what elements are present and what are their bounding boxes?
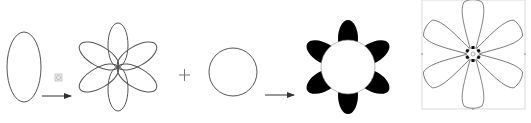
rotate-tool-icon bbox=[55, 74, 62, 81]
black-flower bbox=[302, 20, 393, 114]
edited-petals bbox=[421, 0, 526, 108]
center-point bbox=[471, 52, 475, 56]
six-petal-outline bbox=[75, 23, 161, 111]
edited-flower bbox=[421, 0, 526, 110]
diagram-svg bbox=[0, 0, 531, 123]
diagram-canvas bbox=[0, 0, 531, 123]
plus-sign bbox=[179, 69, 190, 81]
circle-shape bbox=[209, 48, 257, 96]
ellipse-shape bbox=[7, 32, 41, 102]
